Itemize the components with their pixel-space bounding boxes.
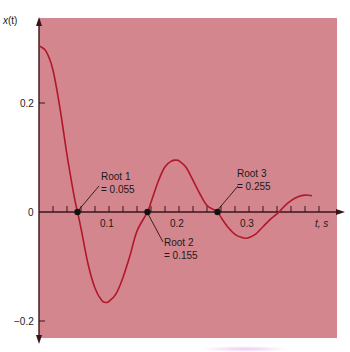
root-3-label: Root 3 — [237, 168, 267, 179]
root-2-marker — [144, 209, 150, 215]
y-tick-label-neg-0.2: −0.2 — [14, 316, 34, 327]
root-1-label: Root 1 — [101, 171, 131, 182]
root-2-value: = 0.155 — [164, 250, 198, 261]
root-3-value: = 0.255 — [237, 181, 271, 192]
x-axis-label: t, s — [315, 218, 328, 229]
y-axis-down-arrow-icon — [36, 335, 42, 344]
x-axis-arrow-icon — [336, 209, 345, 215]
bottom-glow-artifact — [200, 346, 290, 352]
y-axis-label: x(t) — [2, 15, 17, 26]
plot-background — [39, 18, 337, 338]
x-tick-label-0.3: 0.3 — [240, 218, 254, 229]
damped-oscillation-chart: x(t) 0.2 0 −0.2 0.1 0.2 0.3 t, s Root 1 … — [0, 0, 350, 352]
x-tick-label-0.2: 0.2 — [170, 218, 184, 229]
root-1-value: = 0.055 — [101, 184, 135, 195]
root-3-marker — [214, 209, 220, 215]
x-tick-label-0.1: 0.1 — [100, 218, 114, 229]
y-tick-label-0: 0 — [28, 207, 34, 218]
root-1-marker — [74, 209, 80, 215]
y-tick-label-0.2: 0.2 — [20, 98, 34, 109]
root-2-label: Root 2 — [164, 237, 194, 248]
